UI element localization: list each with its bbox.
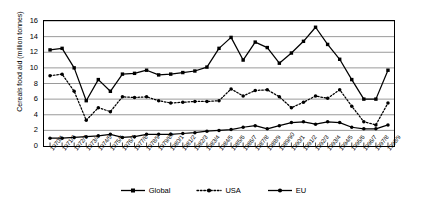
data-point-usa [386, 101, 390, 105]
data-point-eu [350, 126, 354, 130]
data-point-eu [386, 123, 390, 127]
data-point-usa [362, 120, 366, 124]
data-point-global [290, 51, 293, 54]
legend-label: EU [296, 186, 306, 195]
data-point-eu [205, 129, 209, 133]
data-point-eu [60, 136, 64, 140]
data-point-eu [48, 136, 52, 140]
data-point-eu [278, 124, 282, 128]
data-point-eu [217, 129, 221, 133]
data-point-eu [121, 136, 125, 140]
data-point-usa [97, 106, 101, 110]
data-point-usa [109, 110, 113, 114]
data-point-global [169, 72, 172, 75]
data-point-eu [133, 135, 137, 139]
series-canvas [44, 21, 394, 146]
chart-legend: GlobalUSAEU [0, 186, 426, 195]
data-point-global [60, 47, 63, 50]
data-point-usa [48, 74, 52, 78]
data-point-eu [145, 133, 149, 137]
y-tick-label: 2 [22, 126, 38, 134]
data-point-global [48, 48, 51, 51]
data-point-global [217, 47, 220, 50]
plot-area [43, 20, 395, 147]
data-point-usa [314, 94, 318, 98]
data-point-usa [374, 123, 378, 127]
data-point-global [278, 61, 281, 64]
data-point-global [326, 43, 329, 46]
data-point-global [109, 90, 112, 93]
data-point-usa [157, 99, 161, 103]
data-point-global [302, 40, 305, 43]
y-tick-label: 0 [22, 142, 38, 150]
legend-label: Global [149, 186, 171, 195]
data-point-eu [84, 135, 88, 139]
data-point-usa [217, 99, 221, 103]
data-point-eu [266, 127, 270, 131]
data-point-usa [205, 100, 209, 104]
data-point-global [338, 58, 341, 61]
data-point-usa [326, 97, 330, 101]
data-point-eu [109, 133, 113, 137]
data-point-global [85, 99, 88, 102]
y-tick-label: 6 [22, 95, 38, 103]
data-point-eu [193, 131, 197, 135]
data-point-usa [84, 118, 88, 122]
legend-key-eu-icon [267, 186, 293, 195]
data-point-eu [169, 133, 173, 137]
data-point-global [350, 78, 353, 81]
data-point-eu [181, 132, 185, 136]
data-point-global [72, 66, 75, 69]
data-point-global [193, 69, 196, 72]
data-point-usa [278, 95, 282, 99]
data-point-eu [338, 121, 342, 125]
data-point-usa [72, 90, 76, 94]
data-point-eu [374, 127, 378, 131]
data-point-usa [169, 101, 173, 105]
legend-item-eu: EU [267, 186, 306, 195]
data-point-eu [290, 121, 294, 125]
data-point-usa [181, 101, 185, 105]
data-point-eu [97, 134, 101, 138]
data-point-global [314, 26, 317, 29]
data-point-global [266, 46, 269, 49]
data-point-eu [302, 120, 306, 124]
data-point-eu [362, 127, 366, 131]
data-point-global [374, 97, 377, 100]
data-point-eu [229, 128, 233, 132]
data-point-eu [157, 133, 161, 137]
data-point-global [229, 36, 232, 39]
data-point-global [205, 65, 208, 68]
data-point-global [254, 40, 257, 43]
legend-key-global-icon [120, 186, 146, 195]
y-tick-label: 8 [22, 80, 38, 88]
legend-item-global: Global [120, 186, 171, 195]
data-point-usa [229, 87, 233, 91]
data-point-usa [253, 89, 257, 93]
data-point-global [145, 69, 148, 72]
data-point-eu [241, 126, 245, 130]
legend-item-usa: USA [196, 186, 240, 195]
data-point-usa [133, 96, 137, 100]
data-point-global [386, 69, 389, 72]
data-point-global [97, 78, 100, 81]
y-tick-label: 14 [22, 33, 38, 41]
legend-marker [278, 188, 282, 192]
data-point-usa [60, 72, 64, 76]
legend-label: USA [225, 186, 240, 195]
y-tick-label: 4 [22, 111, 38, 119]
data-point-usa [350, 104, 354, 108]
data-point-usa [241, 94, 245, 98]
y-tick-label: 12 [22, 48, 38, 56]
data-point-global [181, 71, 184, 74]
data-point-usa [302, 101, 306, 105]
y-axis-tick-labels: 0246810121416 [20, 0, 38, 214]
data-point-eu [326, 120, 330, 124]
data-point-usa [121, 95, 125, 99]
data-point-usa [266, 88, 270, 92]
data-point-global [121, 72, 124, 75]
data-point-global [362, 97, 365, 100]
data-point-usa [193, 100, 197, 104]
data-point-usa [145, 95, 149, 99]
cereals-food-aid-chart: Cereals food aid (million tonnes) 024681… [0, 0, 426, 214]
